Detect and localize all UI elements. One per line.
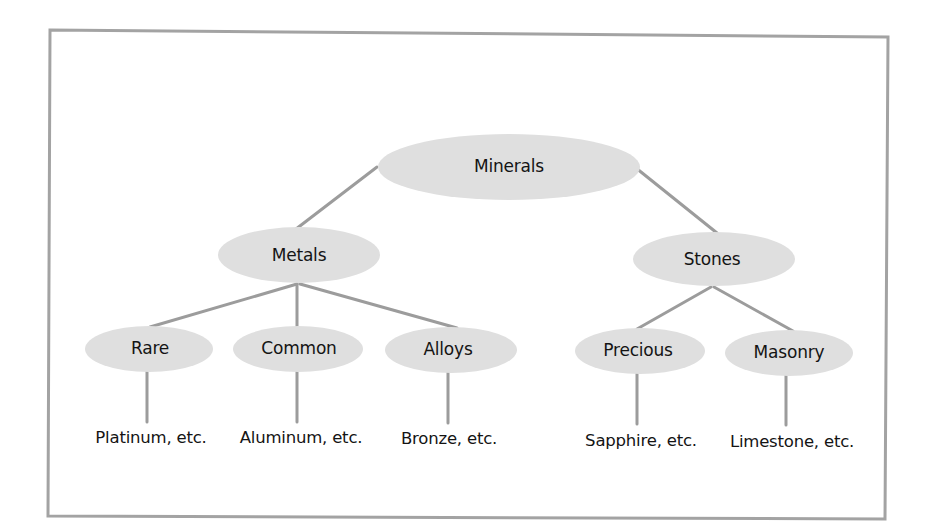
node-masonry-label: Masonry [754, 342, 825, 362]
node-rare-label: Rare [131, 338, 169, 358]
node-alloys-label: Alloys [423, 339, 472, 359]
example-limestone-label: Limestone, etc. [730, 432, 854, 451]
example-platinum-label: Platinum, etc. [95, 428, 206, 447]
diagram-graphics [0, 0, 934, 532]
node-minerals-label: Minerals [474, 156, 544, 176]
connector-stones-precious [637, 287, 711, 329]
node-stones-label: Stones [684, 249, 741, 269]
connector-stones-masonry [714, 287, 793, 331]
diagram-canvas: Minerals Metals Stones Rare Common Alloy… [0, 0, 934, 532]
connector-minerals-metals [296, 167, 377, 229]
example-sapphire-label: Sapphire, etc. [585, 431, 697, 450]
node-metals-label: Metals [272, 245, 327, 265]
connector-metals-rare [150, 284, 297, 327]
connector-minerals-stones [636, 168, 717, 233]
connector-metals-alloys [300, 284, 457, 328]
node-common-label: Common [261, 338, 336, 358]
example-bronze-label: Bronze, etc. [401, 429, 497, 448]
connectors [147, 167, 793, 425]
example-aluminum-label: Aluminum, etc. [240, 428, 363, 447]
node-precious-label: Precious [603, 340, 673, 360]
